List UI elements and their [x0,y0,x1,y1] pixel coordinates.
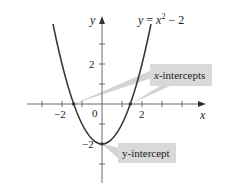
eq-equals: = [143,13,156,27]
y-tick-label-2: 2 [89,58,95,70]
y-tick-label-neg2: −2 [82,138,94,150]
x-tick-label-neg2: −2 [54,108,66,120]
eq-rest: − 2 [165,13,184,27]
x-intercept-point-left [72,102,76,106]
origin-label: 0 [92,107,98,119]
x-intercepts-label: x-intercepts [153,69,205,81]
y-intercept-label: y-intercept [122,147,170,159]
x-intercepts-suffix: -intercepts [159,69,205,81]
parabola-chart: x y 0 −2 2 2 −2 y = x2 − 2 x-intercepts … [0,0,225,196]
y-axis [99,16,105,183]
equation-label: y = x2 − 2 [137,12,184,27]
x-axis-label: x [199,108,206,122]
x-tick-label-2: 2 [139,108,145,120]
x-axis [27,101,206,107]
y-axis-arrow-icon [99,16,105,24]
x-axis-arrow-icon [198,101,206,107]
y-intercept-point [100,142,104,146]
leader-right-intercept [130,86,170,104]
x-intercept-point-right [129,102,133,106]
y-axis-label: y [89,13,96,27]
y-intercept-leader [102,144,120,160]
